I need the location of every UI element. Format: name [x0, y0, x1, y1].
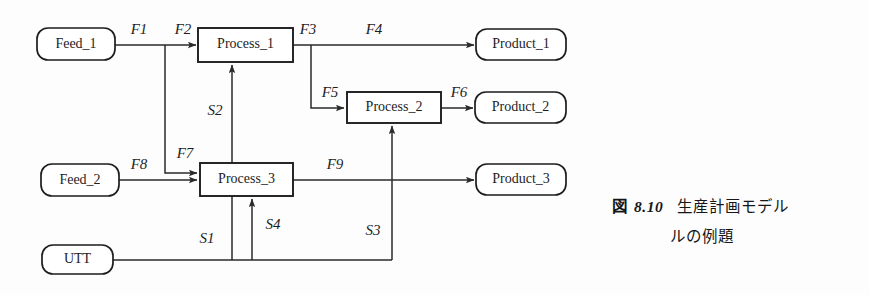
feed-1-label: Feed_1 [55, 36, 96, 51]
feed-2-label: Feed_2 [59, 172, 100, 187]
node-feed-1[interactable]: Feed_1 [37, 28, 115, 60]
caption-fig-word: 図 [612, 198, 628, 215]
edge-label-S3: S3 [366, 222, 381, 238]
node-product-3[interactable]: Product_3 [476, 164, 566, 195]
node-process-3[interactable]: Process_3 [200, 163, 293, 196]
edge-label-F7: F7 [176, 145, 195, 161]
edge-label-S4: S4 [266, 216, 282, 232]
node-process-2[interactable]: Process_2 [347, 92, 441, 123]
edge-label-S1: S1 [200, 230, 215, 246]
product-2-label: Product_2 [492, 99, 550, 114]
node-utt[interactable]: UTT [42, 245, 113, 274]
edge-label-F2: F2 [174, 21, 192, 37]
edge-label-F1: F1 [130, 21, 148, 37]
figure-caption: 図8.10 生産計画モデル ルの例題 [612, 192, 862, 252]
process-2-label: Process_2 [366, 99, 423, 114]
product-3-label: Product_3 [492, 171, 550, 186]
caption-line-2: ルの例題 [612, 222, 862, 252]
node-process-1[interactable]: Process_1 [198, 28, 293, 62]
edge-label-F8: F8 [130, 156, 148, 172]
edge-label-F5: F5 [321, 84, 339, 100]
edge-label-F9: F9 [326, 156, 344, 172]
product-1-label: Product_1 [492, 36, 550, 51]
edge-label-S2: S2 [208, 102, 224, 118]
edge-label-F6: F6 [450, 84, 468, 100]
edge-label-F3: F3 [299, 21, 317, 37]
caption-line-1: 図8.10 生産計画モデル [612, 192, 862, 222]
caption-text-line-2: ルの例題 [670, 228, 734, 245]
figure-container: Feed_1 Feed_2 UTT Process_1 Process_2 Pr… [0, 0, 869, 295]
node-product-1[interactable]: Product_1 [476, 29, 566, 60]
edge-label-F4: F4 [365, 21, 383, 37]
caption-text-line-1: 生産計画モデル [677, 198, 789, 215]
process-3-label: Process_3 [218, 171, 275, 186]
utt-label: UTT [64, 251, 92, 266]
node-feed-2[interactable]: Feed_2 [41, 164, 119, 196]
node-product-2[interactable]: Product_2 [475, 92, 566, 123]
caption-figure-number: 8.10 [634, 198, 663, 215]
process-1-label: Process_1 [217, 36, 274, 51]
